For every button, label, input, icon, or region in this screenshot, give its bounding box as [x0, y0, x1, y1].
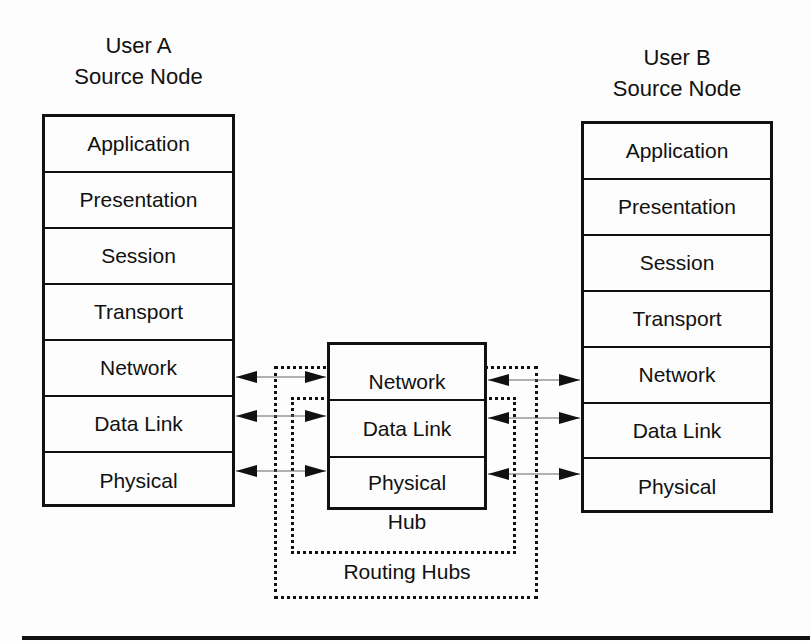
- arrowhead-icon: [236, 410, 257, 422]
- connection-arrows: [0, 0, 810, 641]
- arrowhead-icon: [488, 412, 509, 424]
- arrowhead-icon: [488, 468, 509, 480]
- arrowhead-icon: [488, 374, 509, 386]
- arrowhead-icon: [236, 465, 257, 477]
- arrowhead-icon: [559, 412, 580, 424]
- bottom-rule-divider: [22, 636, 810, 640]
- arrowhead-icon: [559, 468, 580, 480]
- arrowhead-icon: [305, 465, 326, 477]
- arrowhead-icon: [305, 371, 326, 383]
- arrowhead-icon: [236, 371, 257, 383]
- arrowhead-icon: [305, 410, 326, 422]
- arrowhead-icon: [559, 374, 580, 386]
